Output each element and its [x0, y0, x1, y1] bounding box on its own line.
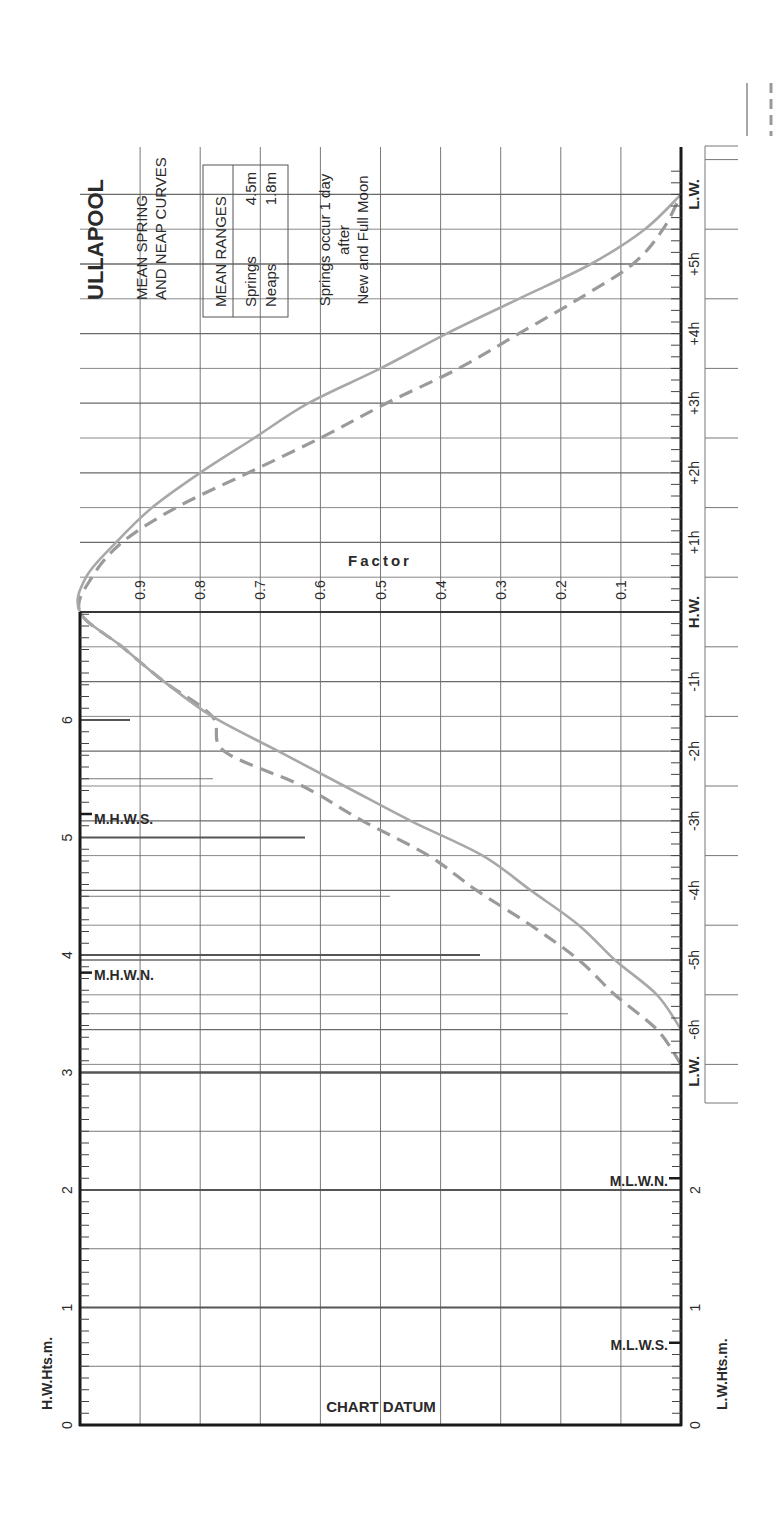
factor-tick-label: 0.8 [192, 580, 208, 600]
time-tick-label: +1h [686, 531, 702, 555]
lw-height-tick-label: 1 [687, 1303, 703, 1311]
factor-tick-label: 0.2 [553, 580, 569, 600]
note-line2: after [335, 225, 352, 255]
lw-height-tick-label: 2 [687, 1186, 703, 1194]
mhws-label: M.H.W.S. [94, 811, 153, 827]
hw-height-tick-label: 6 [59, 716, 75, 724]
factor-tick-label: 0.5 [373, 580, 389, 600]
ranges-springs-value: 4.5m [242, 172, 259, 205]
factor-tick-label: 0.3 [493, 580, 509, 600]
hw-height-tick-label: 0 [59, 1421, 75, 1429]
time-tick-label: +4h [686, 322, 702, 346]
mlws-label: M.L.W.S. [610, 1337, 668, 1353]
factor-tick-label: 0.9 [132, 580, 148, 600]
lw-heights-label: L.W.Hts.m. [714, 1338, 730, 1410]
lw-height-tick-label: 0 [687, 1421, 703, 1429]
tidal-curve-chart: ULLAPOOL MEAN SPRING AND NEAP CURVES MEA… [0, 0, 779, 1535]
time-tick-label: +5h [686, 252, 702, 276]
time-tick-label: -6h [686, 1019, 702, 1039]
factor-tick-label: 0.1 [613, 580, 629, 600]
note-line3: New and Full Moon [354, 175, 371, 304]
hw-height-tick-label: 3 [59, 1068, 75, 1076]
tick-labels: 0.90.80.70.60.50.40.30.20.10123456012L.W… [59, 179, 703, 1429]
time-tick-label: L.W. [685, 1056, 702, 1087]
subtitle-line2: AND NEAP CURVES [152, 157, 169, 300]
time-tick-label: -3h [686, 811, 702, 831]
mlwn-label: M.L.W.N. [610, 1173, 668, 1189]
legend [747, 83, 771, 136]
factor-tick-label: 0.7 [252, 580, 268, 600]
chart-datum-label: CHART DATUM [326, 1398, 436, 1415]
ranges-neaps-label: Neaps [262, 264, 279, 307]
factor-tick-label: 0.6 [312, 580, 328, 600]
mhwn-label: M.H.W.N. [94, 967, 154, 983]
neap-curve [79, 194, 681, 1064]
ranges-springs-label: Springs [242, 256, 259, 307]
grid [80, 147, 681, 1425]
hw-heights-label: H.W.Hts.m. [39, 1337, 55, 1410]
subtitle-line1: MEAN SPRING [133, 195, 150, 300]
hw-height-tick-label: 1 [59, 1303, 75, 1311]
time-tick-label: +3h [686, 391, 702, 415]
hw-height-tick-label: 2 [59, 1186, 75, 1194]
time-tick-label: -4h [686, 880, 702, 900]
factor-label: Factor [348, 552, 412, 569]
time-tick-label: -1h [686, 671, 702, 691]
note-line1: Springs occur 1 day [316, 173, 333, 306]
ranges-neaps-value: 1.8m [262, 172, 279, 205]
curves [78, 194, 681, 1064]
time-tick-label: -5h [686, 950, 702, 970]
factor-tick-label: 0.4 [433, 580, 449, 600]
time-tick-label: H.W. [685, 596, 702, 629]
time-tick-label: +2h [686, 461, 702, 485]
hw-height-tick-label: 4 [59, 951, 75, 959]
chart-title: ULLAPOOL [83, 179, 108, 300]
ranges-header: MEAN RANGES [212, 196, 229, 307]
time-tick-label: -2h [686, 741, 702, 761]
hw-height-tick-label: 5 [59, 833, 75, 841]
time-tick-label: L.W. [685, 179, 702, 210]
